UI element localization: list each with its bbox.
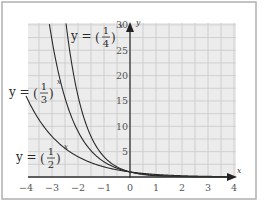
x-tick-label: 2	[179, 182, 185, 193]
curve-label: y =(14)x	[70, 22, 128, 49]
equation-prefix: y =	[70, 29, 92, 43]
y-tick-label: 5	[122, 146, 128, 157]
paren-left: (	[33, 87, 38, 101]
equation-prefix: y =	[15, 150, 37, 164]
fraction-numerator: 1	[48, 146, 54, 157]
x-tick-label: 3	[205, 182, 211, 193]
x-tick-label: −1	[97, 182, 111, 193]
paren-right: )	[56, 152, 61, 166]
paren-right: )	[111, 31, 116, 45]
exponential-chart: xy −4−3−2−10123451015202530 y =(12)xy =(…	[0, 0, 265, 209]
exponent: x	[119, 22, 123, 30]
x-tick-label: −4	[19, 182, 33, 193]
fraction-numerator: 1	[41, 81, 47, 92]
x-tick-label: −2	[71, 182, 85, 193]
x-tick-label: 1	[153, 182, 159, 193]
y-tick-label: 10	[116, 121, 128, 132]
x-tick-label: −3	[45, 182, 59, 193]
exponent: x	[57, 78, 61, 86]
paren-left: (	[40, 152, 45, 166]
y-tick-label: 20	[116, 70, 128, 81]
paren-right: )	[49, 87, 54, 101]
equation-prefix: y =	[8, 85, 30, 99]
fraction-denominator: 3	[41, 94, 47, 105]
x-tick-label: 0	[127, 182, 133, 193]
y-tick-label: 15	[116, 95, 128, 106]
x-tick-label: 4	[231, 182, 237, 193]
paren-left: (	[95, 31, 100, 45]
y-axis-label: y	[135, 18, 141, 27]
exponent: x	[64, 143, 68, 151]
fraction-denominator: 2	[48, 159, 54, 170]
fraction-denominator: 4	[103, 38, 109, 49]
fraction-numerator: 1	[103, 25, 109, 36]
